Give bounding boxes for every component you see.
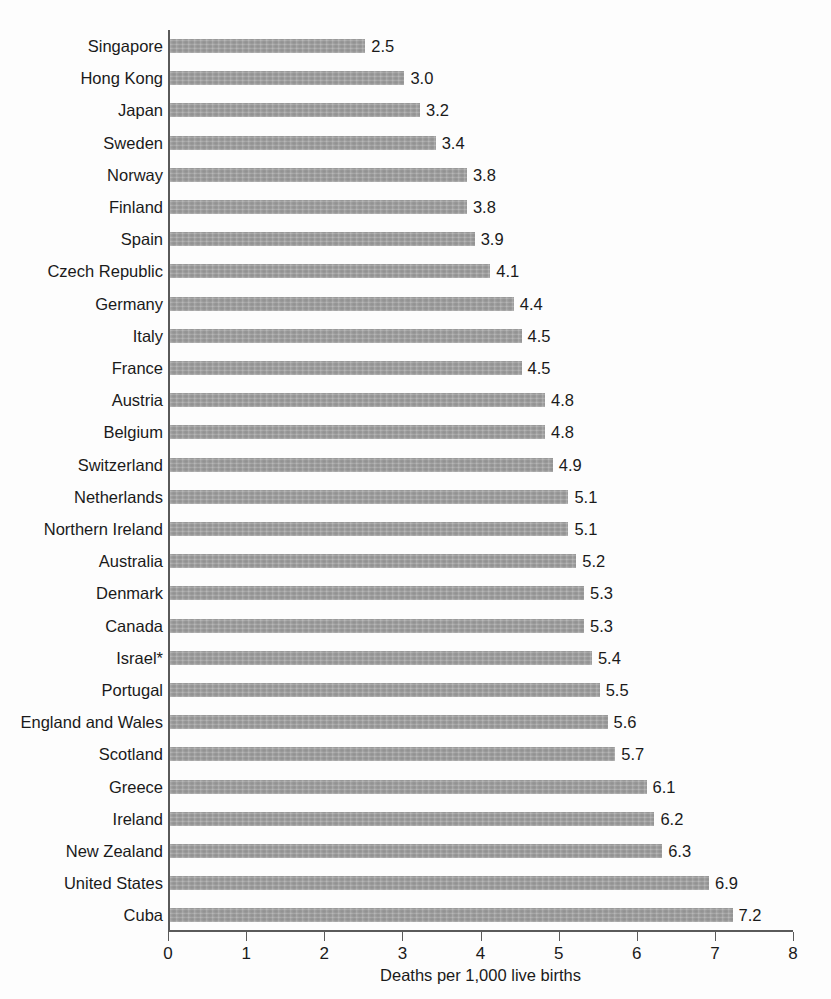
category-label: Scotland (99, 745, 163, 764)
x-axis-tick (246, 932, 247, 941)
bar-row: Japan3.2 (0, 94, 831, 126)
bar (170, 812, 654, 826)
x-axis-tick-label: 0 (163, 944, 172, 964)
bar (170, 458, 553, 472)
bar (170, 554, 576, 568)
bar-row: New Zealand6.3 (0, 835, 831, 867)
bar (170, 715, 608, 729)
bar-value-label: 5.3 (590, 584, 613, 603)
bar-value-label: 4.8 (551, 423, 574, 442)
bar-row: Sweden3.4 (0, 127, 831, 159)
bar-row: Spain3.9 (0, 223, 831, 255)
category-label: Germany (95, 294, 163, 313)
category-label: Singapore (88, 37, 163, 56)
bar (170, 844, 662, 858)
category-label: England and Wales (21, 713, 163, 732)
bar (170, 232, 475, 246)
category-label: United States (64, 874, 163, 893)
bar (170, 71, 404, 85)
bar-value-label: 3.4 (442, 133, 465, 152)
bar-value-label: 6.3 (668, 842, 691, 861)
x-axis-tick (324, 932, 325, 941)
bar-row: Netherlands5.1 (0, 481, 831, 513)
bar-row: Austria4.8 (0, 384, 831, 416)
bar-row: United States6.9 (0, 867, 831, 899)
category-label: Hong Kong (80, 69, 163, 88)
x-axis-tick-label: 2 (320, 944, 329, 964)
bar-row: Finland3.8 (0, 191, 831, 223)
bar (170, 297, 514, 311)
bar-value-label: 5.6 (614, 713, 637, 732)
bar (170, 747, 615, 761)
bar-value-label: 4.5 (528, 326, 551, 345)
x-axis-tick-label: 4 (476, 944, 485, 964)
category-label: Australia (99, 552, 163, 571)
bar (170, 490, 568, 504)
bar-row: Scotland5.7 (0, 738, 831, 770)
bar-row: England and Wales5.6 (0, 706, 831, 738)
bar-row: Singapore2.5 (0, 30, 831, 62)
bar-value-label: 5.7 (621, 745, 644, 764)
x-axis-tick (559, 932, 560, 941)
bar-row: Italy4.5 (0, 320, 831, 352)
bar-value-label: 5.4 (598, 648, 621, 667)
bar-value-label: 5.1 (574, 520, 597, 539)
bar-row: Canada5.3 (0, 610, 831, 642)
bar (170, 136, 436, 150)
category-label: Canada (105, 616, 163, 635)
bar-value-label: 4.1 (496, 262, 519, 281)
category-label: Spain (121, 230, 163, 249)
category-label: Denmark (96, 584, 163, 603)
plot-area: 012345678 Singapore2.5Hong Kong3.0Japan3… (0, 0, 831, 999)
category-label: Netherlands (74, 487, 163, 506)
bar-value-label: 3.8 (473, 198, 496, 217)
bar (170, 264, 490, 278)
bar-row: Israel*5.4 (0, 642, 831, 674)
x-axis-tick-label: 8 (788, 944, 797, 964)
bar-value-label: 6.9 (715, 874, 738, 893)
x-axis-tick-label: 7 (710, 944, 719, 964)
bar (170, 103, 420, 117)
bar-value-label: 5.1 (574, 487, 597, 506)
bar (170, 651, 592, 665)
bar-row: Germany4.4 (0, 288, 831, 320)
infant-mortality-bar-chart: 012345678 Singapore2.5Hong Kong3.0Japan3… (0, 0, 831, 999)
bar (170, 393, 545, 407)
bar-value-label: 3.2 (426, 101, 449, 120)
bar-value-label: 5.3 (590, 616, 613, 635)
bar-row: Czech Republic4.1 (0, 255, 831, 287)
bar-value-label: 4.8 (551, 391, 574, 410)
category-label: France (112, 359, 163, 378)
category-label: Czech Republic (47, 262, 163, 281)
bar-value-label: 3.8 (473, 165, 496, 184)
x-axis-tick-label: 3 (398, 944, 407, 964)
category-label: Finland (109, 198, 163, 217)
bar-value-label: 4.4 (520, 294, 543, 313)
bar-row: Hong Kong3.0 (0, 62, 831, 94)
bar-row: Cuba7.2 (0, 899, 831, 931)
bar-row: Norway3.8 (0, 159, 831, 191)
bar-value-label: 5.5 (606, 681, 629, 700)
bar-row: Belgium4.8 (0, 416, 831, 448)
category-label: Japan (118, 101, 163, 120)
bar (170, 586, 584, 600)
category-label: Sweden (103, 133, 163, 152)
bar-value-label: 7.2 (739, 906, 762, 925)
category-label: Cuba (124, 906, 163, 925)
bar-row: Greece6.1 (0, 771, 831, 803)
bar (170, 908, 733, 922)
bar (170, 425, 545, 439)
bar-row: Ireland6.2 (0, 803, 831, 835)
category-label: Israel* (116, 648, 163, 667)
x-axis-tick-label: 1 (241, 944, 250, 964)
category-label: New Zealand (66, 842, 163, 861)
category-label: Norway (107, 165, 163, 184)
bar-value-label: 4.5 (528, 359, 551, 378)
bar-row: Australia5.2 (0, 545, 831, 577)
x-axis-tick (402, 932, 403, 941)
category-label: Belgium (103, 423, 163, 442)
bar (170, 39, 365, 53)
category-label: Greece (109, 777, 163, 796)
bar-value-label: 3.0 (410, 69, 433, 88)
category-label: Portugal (102, 681, 163, 700)
